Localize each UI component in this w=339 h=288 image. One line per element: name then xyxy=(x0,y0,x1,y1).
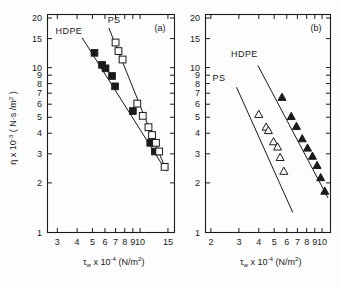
panel-label: (b) xyxy=(311,23,322,33)
series-label-HDPE: HDPE xyxy=(56,26,83,36)
data-point-HDPE xyxy=(91,49,98,56)
y-tick-label: 2 xyxy=(37,178,42,188)
data-point-PS xyxy=(276,153,284,160)
data-point-PS xyxy=(112,39,119,46)
x-tick-label: 10 xyxy=(135,237,145,247)
data-point-PS xyxy=(139,112,146,119)
log-log-viscosity-figure: 23456789101520134567891015(a)HDPEPSτw x … xyxy=(0,0,339,288)
data-point-PS xyxy=(156,148,163,155)
x-tick-label: 5 xyxy=(90,237,95,247)
x-tick-label: 8 xyxy=(304,237,309,247)
figure-root: 23456789101520134567891015(a)HDPEPSτw x … xyxy=(0,0,339,288)
data-point-HDPE xyxy=(317,173,325,180)
data-point-HDPE xyxy=(321,187,329,194)
x-tick-label: 4 xyxy=(256,237,261,247)
x-tick-label: 4 xyxy=(75,237,80,247)
data-point-HDPE xyxy=(109,73,116,80)
panel-b: 2345678910152012345678910(b)HDPEPSτw x 1… xyxy=(190,13,331,268)
data-point-HDPE xyxy=(278,93,286,100)
series-label-PS: PS xyxy=(108,15,121,25)
data-point-HDPE xyxy=(304,144,312,151)
y-tick-label: 6 xyxy=(37,99,42,109)
panel-a: 23456789101520134567891015(a)HDPEPSτw x … xyxy=(32,13,175,268)
data-point-HDPE xyxy=(308,152,316,159)
x-tick-label: 15 xyxy=(163,237,173,247)
x-tick-label: 6 xyxy=(284,237,289,247)
x-tick-label: 8 xyxy=(122,237,127,247)
series-label-PS: PS xyxy=(213,73,226,83)
data-point-HDPE xyxy=(129,108,136,115)
plot-frame xyxy=(206,15,331,233)
data-point-PS xyxy=(145,124,152,131)
data-point-PS xyxy=(153,139,160,146)
data-point-PS xyxy=(255,110,263,117)
y-tick-label: 3 xyxy=(37,149,42,159)
panel-label: (a) xyxy=(155,23,166,33)
y-tick-label: 7 xyxy=(195,88,200,98)
y-tick-label: 4 xyxy=(37,128,42,138)
y-tick-label: 15 xyxy=(190,34,200,44)
y-tick-label: 3 xyxy=(195,149,200,159)
data-point-HDPE xyxy=(298,135,306,142)
data-point-PS xyxy=(119,56,126,63)
x-axis-label: τw x 10-4 (N/m2) xyxy=(240,255,302,268)
data-point-HDPE xyxy=(112,83,119,90)
y-tick-label: 15 xyxy=(32,34,42,44)
y-tick-label: 10 xyxy=(190,63,200,73)
x-tick-label: 10 xyxy=(317,237,327,247)
data-point-HDPE xyxy=(287,112,295,119)
y-tick-label: 10 xyxy=(32,63,42,73)
x-tick-label: 2 xyxy=(208,237,213,247)
y-tick-label: 6 xyxy=(195,99,200,109)
data-point-PS xyxy=(161,163,168,170)
y-tick-label: 4 xyxy=(195,128,200,138)
y-axis-origin-label: 1 xyxy=(195,228,200,238)
y-axis-origin-label: 1 xyxy=(37,228,42,238)
x-tick-label: 3 xyxy=(236,237,241,247)
series-label-HDPE: HDPE xyxy=(231,49,258,59)
y-tick-label: 20 xyxy=(32,13,42,23)
data-point-PS xyxy=(269,138,277,145)
fit-line-PS xyxy=(237,87,293,212)
x-tick-label: 6 xyxy=(102,237,107,247)
y-tick-label: 2 xyxy=(195,178,200,188)
data-point-HDPE xyxy=(102,65,109,72)
y-tick-label: 7 xyxy=(37,88,42,98)
x-axis-label-text: τw x 10-4 (N/m2) xyxy=(83,255,145,268)
data-point-HDPE xyxy=(292,122,300,129)
x-tick-label: 3 xyxy=(55,237,60,247)
x-tick-label: 7 xyxy=(295,237,300,247)
y-axis-label: η x 10-3 ( N·s /m2 ) xyxy=(7,91,18,165)
y-tick-label: 20 xyxy=(190,13,200,23)
data-point-PS xyxy=(280,167,288,174)
y-axis-label-text: η x 10-3 ( N·s /m2 ) xyxy=(7,91,18,165)
data-point-PS xyxy=(149,132,156,139)
y-tick-label: 5 xyxy=(37,112,42,122)
data-point-PS xyxy=(134,100,141,107)
x-axis-label-text: τw x 10-4 (N/m2) xyxy=(240,255,302,268)
x-tick-label: 5 xyxy=(272,237,277,247)
data-point-HDPE xyxy=(313,161,321,168)
data-point-PS xyxy=(115,48,122,55)
plot-frame xyxy=(48,15,175,233)
x-tick-label: 7 xyxy=(113,237,118,247)
x-axis-label: τw x 10-4 (N/m2) xyxy=(83,255,145,268)
y-tick-label: 5 xyxy=(195,112,200,122)
